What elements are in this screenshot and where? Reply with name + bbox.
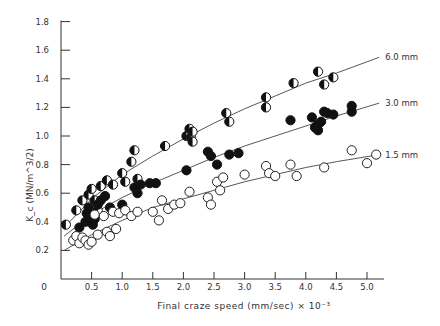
y-axis-label: K_c (MN/m^3/2) — [25, 148, 35, 222]
data-point — [292, 171, 301, 180]
data-point — [216, 186, 225, 195]
data-point — [176, 199, 185, 208]
data-point — [72, 206, 81, 215]
x-tick-label: 2.0 — [177, 282, 191, 292]
x-tick-label: 0.5 — [85, 282, 99, 292]
y-tick-label: 0.6 — [35, 188, 49, 198]
data-point — [362, 159, 371, 168]
data-point — [289, 78, 298, 87]
fit-curve-6-0-mm — [64, 57, 379, 227]
data-point — [188, 127, 197, 136]
data-point — [111, 224, 120, 233]
data-point — [154, 216, 163, 225]
y-tick-label: 0.4 — [35, 217, 49, 227]
data-point — [313, 67, 322, 76]
x-tick-label: 1.0 — [115, 282, 129, 292]
y-tick-label: 0.2 — [35, 245, 49, 255]
data-point — [133, 207, 142, 216]
data-point — [118, 169, 127, 178]
origin-label: 0 — [41, 282, 47, 292]
data-point — [100, 191, 109, 200]
y-tick-label: 1.0 — [35, 131, 49, 141]
data-point — [148, 207, 157, 216]
x-axis-label: Final craze speed (mm/sec) × 10⁻³ — [157, 301, 330, 311]
x-tick-label: 2.5 — [207, 282, 221, 292]
data-point — [219, 173, 228, 182]
data-point — [234, 149, 243, 158]
data-point — [261, 103, 270, 112]
x-tick-label: 5.0 — [360, 282, 374, 292]
x-tick-label: 4.5 — [330, 282, 344, 292]
series-label: 1.5 mm — [385, 150, 418, 160]
data-point — [329, 110, 338, 119]
data-point — [317, 117, 326, 126]
data-point — [182, 166, 191, 175]
plot-area: 0.20.40.60.81.01.21.41.61.80.51.01.52.02… — [0, 0, 440, 326]
data-point — [261, 93, 270, 102]
y-tick-label: 1.4 — [35, 74, 49, 84]
data-point — [151, 179, 160, 188]
data-point — [136, 180, 145, 189]
data-point — [320, 163, 329, 172]
data-point — [206, 151, 215, 160]
data-point — [185, 187, 194, 196]
data-point — [133, 189, 142, 198]
data-point — [329, 73, 338, 82]
data-point — [90, 210, 99, 219]
data-point — [87, 184, 96, 193]
y-tick-label: 1.6 — [35, 45, 49, 55]
x-tick-label: 4.0 — [299, 282, 313, 292]
data-point — [127, 157, 136, 166]
data-point — [130, 146, 139, 155]
data-point — [206, 200, 215, 209]
scatter-chart: 0.20.40.60.81.01.21.41.61.80.51.01.52.02… — [0, 0, 440, 326]
data-point — [240, 170, 249, 179]
y-tick-label: 1.8 — [35, 17, 49, 27]
data-point — [225, 117, 234, 126]
x-tick-label: 1.5 — [146, 282, 160, 292]
data-point — [188, 137, 197, 146]
data-point — [121, 177, 130, 186]
data-point — [347, 107, 356, 116]
data-point — [108, 180, 117, 189]
data-point — [212, 160, 221, 169]
data-point — [286, 160, 295, 169]
x-tick-label: 3.0 — [238, 282, 252, 292]
data-points — [61, 67, 380, 249]
data-point — [225, 150, 234, 159]
data-point — [313, 126, 322, 135]
data-point — [320, 80, 329, 89]
data-point — [347, 146, 356, 155]
y-tick-label: 1.2 — [35, 102, 49, 112]
data-point — [222, 109, 231, 118]
data-point — [271, 171, 280, 180]
data-point — [61, 220, 70, 229]
data-point — [93, 230, 102, 239]
data-point — [99, 211, 108, 220]
series-label: 6.0 mm — [385, 52, 418, 62]
data-point — [157, 196, 166, 205]
series-label: 3.0 mm — [385, 98, 418, 108]
data-point — [160, 141, 169, 150]
x-tick-label: 3.5 — [268, 282, 282, 292]
data-point — [286, 116, 295, 125]
data-point — [372, 150, 381, 159]
y-tick-label: 0.8 — [35, 160, 49, 170]
